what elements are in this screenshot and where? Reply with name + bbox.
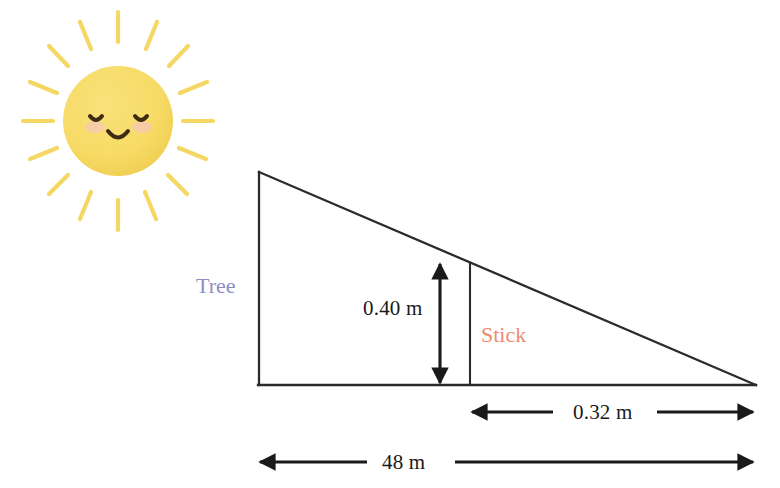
- stick-label: Stick: [481, 322, 526, 348]
- tree-label: Tree: [196, 273, 236, 299]
- similar-triangle: [258, 172, 756, 385]
- diagram-canvas: Tree Stick 0.40 m 0.32 m 48 m: [0, 0, 780, 488]
- stick-height-label: 0.40 m: [363, 296, 423, 321]
- geometry-layer: [0, 0, 780, 488]
- stick-shadow-label: 0.32 m: [573, 400, 633, 425]
- sunray-hypotenuse-side: [259, 172, 756, 385]
- tree-shadow-label: 48 m: [382, 450, 425, 475]
